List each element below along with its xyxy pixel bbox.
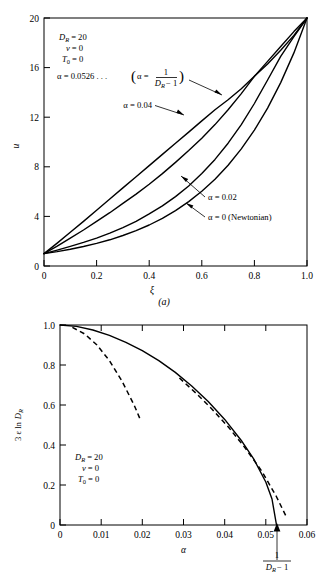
y-tick-label: 4 [34, 212, 39, 222]
param-subscript: 0 [83, 478, 86, 485]
arrow-denominator-rest: − 1 [277, 562, 288, 572]
param-value: = 0 [88, 463, 99, 473]
x-tick-label: 1.0 [301, 271, 313, 281]
y-tick-label: 20 [30, 14, 40, 24]
param-value: = 0 [72, 43, 83, 53]
leader-arrowhead [215, 89, 223, 95]
figure-container: 0 4 8 12 16 20 0 0.2 0.4 0.6 0 [0, 0, 328, 581]
curve-exact-b [60, 325, 277, 525]
parameter-block-b: DR= 20 v= 0 T0= 0 [74, 452, 103, 485]
alpha-critical-prefix: α = 0.0526 . . . [57, 71, 107, 81]
svg-text:T0= 0: T0= 0 [62, 54, 83, 65]
panel-a: 0 4 8 12 16 20 0 0.2 0.4 0.6 0 [0, 0, 328, 312]
x-axis-tick-labels-a: 0 0.2 0.4 0.6 0.8 1.0 [42, 271, 314, 281]
param-symbol: v [66, 43, 70, 53]
y-axis-ticks-a [44, 18, 50, 266]
x-tick-label: 0 [58, 530, 63, 540]
svg-text:DR= 20: DR= 20 [58, 32, 87, 43]
param-subscript: 0 [67, 58, 70, 65]
x-tick-label: 0.03 [175, 530, 192, 540]
svg-text:v= 0: v= 0 [66, 43, 83, 53]
paren-open: ( [131, 68, 136, 85]
param-value: = 20 [87, 452, 103, 462]
inner-alpha-label: α = [137, 71, 149, 81]
y-tick-label: 0.2 [43, 481, 55, 491]
param-subscript: R [80, 456, 85, 463]
paren-close: ) [179, 68, 184, 85]
y-axis-label-a: u [11, 143, 21, 148]
x-axis-ticks-a [44, 260, 307, 266]
x-tick-label: 0.6 [196, 271, 208, 281]
x-tick-label: 0.05 [257, 530, 274, 540]
y-tick-label: 1.0 [43, 321, 55, 331]
param-value: = 0 [88, 474, 99, 484]
y-tick-label: 0.6 [43, 401, 55, 411]
panel-a-plot: 0 4 8 12 16 20 0 0.2 0.4 0.6 0 [0, 0, 328, 312]
x-tick-label: 0 [42, 271, 47, 281]
curve-label-alpha-004: α = 0.04 [123, 100, 184, 115]
panel-b: 0 0.2 0.4 0.6 0.8 1.0 [0, 312, 328, 581]
y-axis-tick-labels-b: 0 0.2 0.4 0.6 0.8 1.0 [43, 321, 55, 531]
y-tick-label: 0.8 [43, 361, 55, 371]
panel-b-plot: 0 0.2 0.4 0.6 0.8 1.0 [0, 312, 328, 581]
svg-text:DR= 20: DR= 20 [74, 452, 103, 463]
x-axis-label-b: α [181, 545, 187, 555]
param-value: = 0 [72, 54, 83, 64]
y-tick-label: 12 [30, 113, 40, 123]
x-axis-label-a: ξ [150, 285, 155, 296]
y-tick-label: 8 [34, 162, 39, 172]
x-tick-label: 0.8 [248, 271, 260, 281]
curve-label-alpha-0-newtonian: α = 0 (Newtonian) [186, 203, 272, 222]
y-axis-label-sub: R [17, 409, 24, 414]
curve-label-alpha-002: α = 0.02 [181, 176, 237, 202]
x-tick-label: 0.02 [134, 530, 151, 540]
plot-frame-a [44, 18, 307, 266]
svg-text:v= 0: v= 0 [82, 463, 99, 473]
arrow-fraction-numerator: 1 [275, 550, 279, 560]
parameter-block-a: DR= 20 v= 0 T0= 0 [58, 32, 87, 65]
fraction-denominator-rest: − 1 [166, 78, 177, 88]
y-tick-label: 16 [30, 63, 40, 73]
arrow-denominator-sub: R [271, 566, 276, 573]
y-tick-label: 0.4 [43, 441, 55, 451]
x-tick-label: 0.4 [143, 271, 155, 281]
x-tick-label: 0.04 [216, 530, 233, 540]
curve-label-text: α = 0.04 [123, 100, 152, 110]
alpha-critical-annotation: α = 0.0526 . . . ( α = 1 DR− 1 ) [57, 67, 222, 95]
y-axis-label-prefix: 3 ε ln [13, 421, 23, 441]
svg-text:T0= 0: T0= 0 [78, 474, 99, 485]
svg-text:DR− 1: DR− 1 [154, 78, 177, 89]
leader-arrowhead [176, 110, 184, 115]
x-tick-label: 0.01 [93, 530, 110, 540]
x-tick-label: 0.2 [91, 271, 103, 281]
panel-a-caption: (a) [0, 296, 328, 307]
annotation-arrowhead [274, 523, 281, 532]
fraction-denominator-sub: R [160, 82, 165, 89]
param-subscript: R [64, 36, 69, 43]
curve-asymptote-small-alpha [72, 327, 140, 419]
y-tick-label: 0 [34, 262, 39, 272]
y-axis-ticks-b [60, 325, 66, 525]
y-axis-tick-labels-a: 0 4 8 12 16 20 [30, 14, 40, 272]
x-tick-label: 0.06 [299, 530, 316, 540]
curve-label-text: α = 0 (Newtonian) [208, 212, 272, 222]
curve-label-text: α = 0.02 [208, 192, 237, 202]
param-value: = 20 [71, 32, 87, 42]
svg-text:DR− 1: DR− 1 [265, 562, 288, 573]
fraction-numerator: 1 [164, 67, 168, 77]
y-axis-label-b: 3 ε lnDR [13, 409, 24, 441]
y-tick-label: 0 [50, 521, 55, 531]
param-symbol: v [82, 463, 86, 473]
